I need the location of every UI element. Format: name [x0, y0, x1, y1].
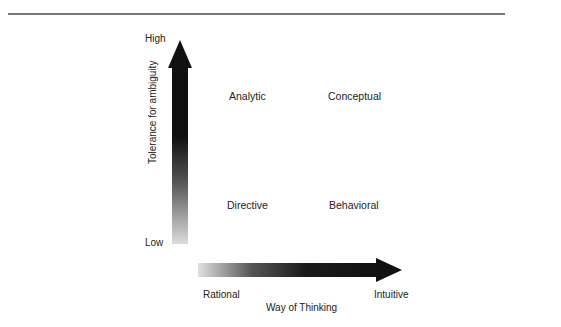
x-axis-left-label: Rational: [203, 289, 240, 300]
vertical-arrow-icon: [168, 40, 192, 244]
x-axis-right-label: Intuitive: [374, 289, 408, 300]
quadrant-conceptual: Conceptual: [328, 90, 381, 102]
quadrant-analytic: Analytic: [229, 90, 266, 102]
quadrant-behavioral: Behavioral: [329, 199, 379, 211]
y-axis-title: Tolerance for ambiguity: [147, 61, 158, 164]
horizontal-arrow-icon: [198, 258, 402, 282]
y-axis-low-label: Low: [145, 237, 163, 248]
x-axis-title: Way of Thinking: [266, 302, 337, 313]
quadrant-directive: Directive: [227, 199, 268, 211]
y-axis-high-label: High: [145, 33, 166, 44]
axes-arrows: [0, 0, 561, 327]
